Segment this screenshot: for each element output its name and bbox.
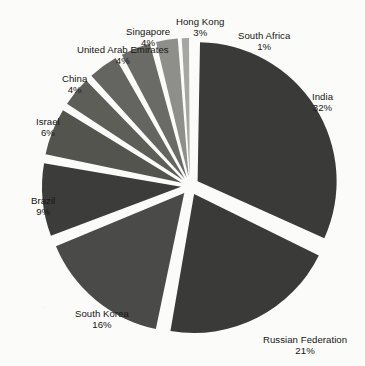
pie-label-china-value: 4%: [62, 84, 87, 95]
pie-label-south-africa: South Africa 1%: [238, 30, 290, 53]
pie-label-south-africa-value: 1%: [238, 41, 290, 52]
pie-label-india-name: India: [312, 91, 333, 102]
pie-label-south-korea: South Korea 16%: [75, 308, 129, 331]
pie-label-brazil: Brazil 9%: [31, 195, 55, 218]
pie-label-israel-name: Israel: [36, 116, 60, 127]
pie-label-china-name: China: [62, 73, 87, 84]
pie-label-hong-kong: Hong Kong 3%: [176, 16, 224, 39]
pie-label-south-korea-value: 16%: [75, 319, 129, 330]
pie-label-india-value: 32%: [312, 102, 333, 113]
pie-label-israel-value: 6%: [36, 127, 60, 138]
pie-label-hong-kong-value: 3%: [176, 27, 224, 38]
pie-label-israel: Israel 6%: [36, 116, 60, 139]
pie-label-south-africa-name: South Africa: [238, 30, 290, 41]
pie-label-singapore-name: Singapore: [126, 26, 170, 37]
pie-label-brazil-name: Brazil: [31, 195, 55, 206]
pie-label-china: China 4%: [62, 73, 87, 96]
pie-label-brazil-value: 9%: [31, 206, 55, 217]
pie-label-united-arab-emirates-value: 4%: [77, 55, 169, 66]
pie-chart: India 32% Russian Federation 21% South K…: [0, 0, 365, 366]
pie-label-india: India 32%: [312, 91, 333, 114]
pie-label-hong-kong-name: Hong Kong: [176, 16, 224, 27]
pie-label-south-korea-name: South Korea: [75, 308, 129, 319]
pie-label-russian-federation-name: Russian Federation: [263, 334, 347, 345]
pie-label-russian-federation: Russian Federation 21%: [263, 334, 347, 357]
pie-label-singapore: Singapore 4%: [126, 26, 170, 49]
pie-label-singapore-value: 4%: [126, 37, 170, 48]
pie-label-russian-federation-value: 21%: [263, 345, 347, 356]
pie-chart-canvas: [0, 0, 365, 366]
